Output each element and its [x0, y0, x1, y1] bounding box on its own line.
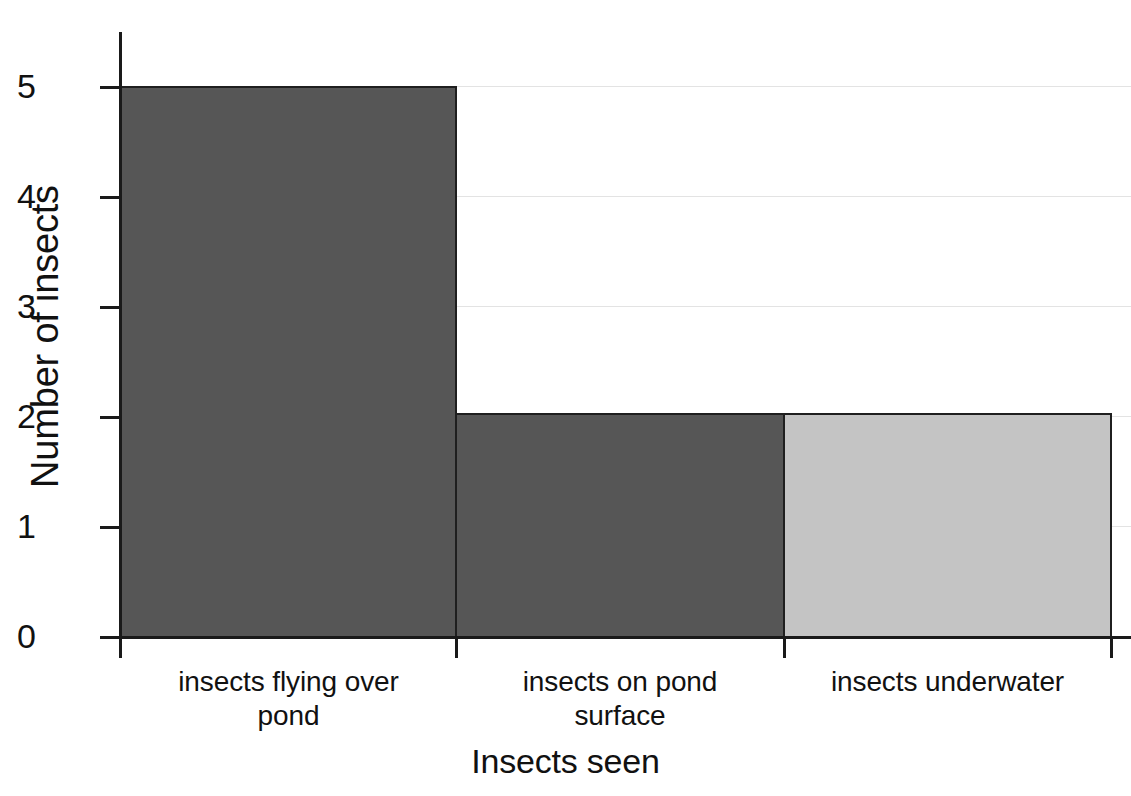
x-category-label-line-2: surface: [455, 699, 785, 733]
y-tick-mark-5: [100, 86, 122, 89]
bar-insects-on-pond-surface: [455, 413, 785, 639]
x-category-label-line-1: insects on pond: [455, 665, 785, 699]
x-tick-mark-1: [455, 636, 458, 658]
x-tick-mark-0: [119, 636, 122, 658]
x-category-label-insects-on-pond-surface: insects on pond surface: [455, 665, 785, 734]
gridline-2: [1110, 416, 1131, 417]
bar-insects-underwater: [783, 413, 1112, 639]
bar-chart: Number of insects 0 1 2 3 4 5 insects fl…: [0, 0, 1131, 796]
y-tick-label-5: 5: [0, 69, 36, 103]
y-tick-label-0: 0: [0, 619, 36, 653]
x-category-label-line-1: insects flying over: [120, 665, 457, 699]
x-tick-mark-2: [783, 636, 786, 658]
y-tick-label-2: 2: [0, 399, 36, 433]
x-axis-line: [119, 636, 1131, 639]
x-tick-mark-3: [1110, 636, 1113, 658]
y-tick-mark-4: [100, 196, 122, 199]
x-axis-title: Insects seen: [0, 742, 1131, 781]
y-tick-mark-1: [100, 526, 122, 529]
y-tick-label-4: 4: [0, 179, 36, 213]
y-axis-line: [119, 32, 122, 638]
y-tick-label-3: 3: [0, 289, 36, 323]
bar-insects-flying-over-pond: [120, 86, 457, 639]
x-category-label-line-2: pond: [120, 699, 457, 733]
x-category-label-insects-underwater: insects underwater: [783, 665, 1112, 699]
y-tick-mark-3: [100, 306, 122, 309]
y-tick-mark-2: [100, 416, 122, 419]
y-tick-label-1: 1: [0, 509, 36, 543]
x-category-label-line-1: insects underwater: [783, 665, 1112, 699]
x-category-label-insects-flying-over-pond: insects flying over pond: [120, 665, 457, 734]
gridline-1: [1110, 526, 1131, 527]
